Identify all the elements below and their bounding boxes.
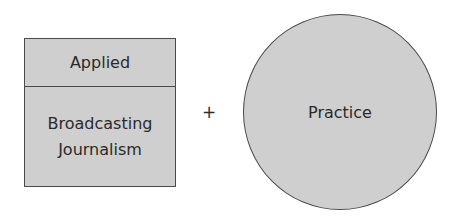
box-body-line-2: Journalism (58, 137, 142, 163)
circle-label: Practice (308, 103, 372, 122)
box-header: Applied (25, 39, 175, 87)
box-header-label: Applied (70, 53, 130, 72)
practice-circle: Practice (243, 14, 437, 210)
applied-broadcasting-journalism-box: Applied Broadcasting Journalism (24, 38, 176, 187)
plus-operator: + (201, 102, 217, 122)
box-body-line-1: Broadcasting (48, 111, 153, 137)
box-body: Broadcasting Journalism (25, 87, 175, 186)
